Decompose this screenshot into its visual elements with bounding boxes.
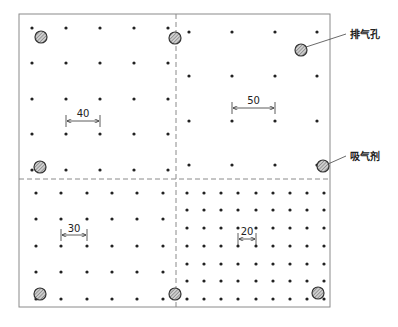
grid-dot xyxy=(98,61,101,64)
grid-dot xyxy=(34,217,37,220)
grid-dot xyxy=(236,279,239,282)
grid-dot xyxy=(305,297,308,300)
grid-dot xyxy=(315,74,318,77)
grid-dot xyxy=(322,208,325,211)
grid-dot xyxy=(254,191,257,194)
grid-dot xyxy=(166,132,169,135)
grid-dot xyxy=(219,226,222,229)
grid-dot xyxy=(98,132,101,135)
grid-dot xyxy=(288,279,291,282)
grid-dot xyxy=(288,208,291,211)
grid-dot xyxy=(185,226,188,229)
grid-dot xyxy=(305,262,308,265)
grid-dot xyxy=(30,168,33,171)
grid-dot xyxy=(219,208,222,211)
grid-dot xyxy=(34,270,37,273)
grid-dot xyxy=(135,191,138,194)
grid-dot xyxy=(254,262,257,265)
grid-dot xyxy=(315,119,318,122)
grid-dot xyxy=(59,297,62,300)
grid-dot xyxy=(219,191,222,194)
callout: 吸气剂 xyxy=(328,150,380,164)
grid-dot xyxy=(30,132,33,135)
grid-dot xyxy=(110,191,113,194)
grid-dot xyxy=(161,191,164,194)
grid-dot xyxy=(322,279,325,282)
layout-diagram: 40503020 排气孔吸气剂 xyxy=(0,0,398,327)
grid-dot xyxy=(219,279,222,282)
grid-dot xyxy=(271,279,274,282)
figure-caption xyxy=(95,315,335,323)
grid-dot xyxy=(202,262,205,265)
grid-dot xyxy=(230,163,233,166)
hole-marker-icon xyxy=(169,288,181,300)
grid-dot xyxy=(135,297,138,300)
grid-dot xyxy=(271,244,274,247)
hole-marker-icon xyxy=(295,44,307,56)
hole-marker-icon xyxy=(34,288,46,300)
grid-dot xyxy=(166,26,169,29)
grid-dot xyxy=(187,163,190,166)
grid-dot xyxy=(161,217,164,220)
grid-dot xyxy=(202,226,205,229)
grid-dot xyxy=(64,97,67,100)
grid-dot xyxy=(34,244,37,247)
grid-dot xyxy=(202,208,205,211)
grid-dot xyxy=(185,208,188,211)
grid-dot xyxy=(305,279,308,282)
grid-dot xyxy=(305,208,308,211)
grid-dot xyxy=(236,208,239,211)
grid-dot xyxy=(132,26,135,29)
spacing-label: 20 xyxy=(241,226,254,237)
grid-dot xyxy=(273,30,276,33)
grid-dot xyxy=(64,168,67,171)
hole-marker-icon xyxy=(169,32,181,44)
grid-dot xyxy=(230,74,233,77)
grid-dot xyxy=(305,191,308,194)
grid-dot xyxy=(271,226,274,229)
grid-dot xyxy=(135,217,138,220)
grid-dot xyxy=(322,244,325,247)
grid-dot xyxy=(273,119,276,122)
grid-dot xyxy=(236,297,239,300)
grid-dot xyxy=(271,208,274,211)
grid-dot xyxy=(230,30,233,33)
grid-dot xyxy=(273,74,276,77)
hole-marker-icon xyxy=(35,31,47,43)
callouts: 排气孔吸气剂 xyxy=(306,28,380,164)
grid-dot xyxy=(288,226,291,229)
outer-frame xyxy=(19,14,330,307)
grid-dot xyxy=(288,297,291,300)
grid-dot xyxy=(305,226,308,229)
spacing-dimension-top-left: 40 xyxy=(66,108,100,127)
grid-dot xyxy=(85,297,88,300)
grid-dot xyxy=(273,163,276,166)
grid-dot xyxy=(254,279,257,282)
grid-dot xyxy=(98,97,101,100)
grid-dot xyxy=(187,30,190,33)
grid-dot xyxy=(202,191,205,194)
grid-dot xyxy=(202,297,205,300)
grid-dot xyxy=(254,208,257,211)
grid-dot xyxy=(59,244,62,247)
grid-dot xyxy=(185,262,188,265)
grid-dot xyxy=(85,244,88,247)
grid-dot xyxy=(59,217,62,220)
grid-dot xyxy=(185,297,188,300)
spacing-dimension-top-right: 50 xyxy=(232,95,275,114)
hole-markers xyxy=(34,31,329,300)
grid-dot xyxy=(30,97,33,100)
grid-dot xyxy=(230,119,233,122)
hole-marker-icon xyxy=(312,287,324,299)
quadrant-top-left xyxy=(30,26,169,171)
grid-dot xyxy=(254,297,257,300)
grid-dot xyxy=(271,191,274,194)
hole-marker-icon xyxy=(34,161,46,173)
grid-dot xyxy=(85,191,88,194)
grid-dot xyxy=(135,270,138,273)
grid-dot xyxy=(110,217,113,220)
grid-dot xyxy=(166,97,169,100)
grid-dot xyxy=(161,244,164,247)
grid-dot xyxy=(185,191,188,194)
grid-dot xyxy=(34,191,37,194)
